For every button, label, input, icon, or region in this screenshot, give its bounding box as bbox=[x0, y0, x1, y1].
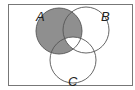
label-b: B bbox=[101, 9, 110, 24]
venn-diagram: A B C bbox=[0, 0, 135, 90]
label-c: C bbox=[68, 74, 78, 89]
label-a: A bbox=[35, 9, 45, 24]
